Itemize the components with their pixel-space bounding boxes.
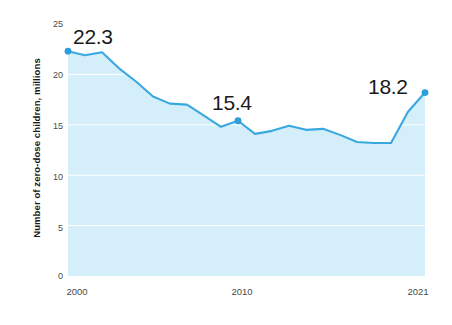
x-tick-label: 2000 [66, 286, 87, 298]
x-tick-label: 2021 [407, 286, 428, 298]
plot-area [0, 0, 452, 325]
data-point-marker [235, 117, 242, 124]
x-axis-tick-labels: 2000 2010 2021 [0, 286, 452, 302]
x-tick-label: 2010 [231, 286, 252, 298]
data-label-2021: 18.2 [368, 76, 408, 98]
data-label-2010: 15.4 [212, 92, 252, 114]
data-point-marker [422, 89, 429, 96]
chart-container: Number of zero-dose children, millions 2… [0, 0, 452, 325]
data-point-marker [65, 48, 72, 55]
data-label-2000: 22.3 [73, 26, 113, 48]
